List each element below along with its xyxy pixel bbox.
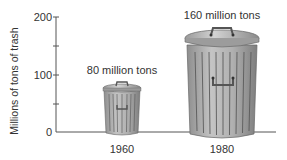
y-axis xyxy=(53,17,59,132)
data-label-1960: 80 million tons xyxy=(67,64,177,76)
chart-graphics xyxy=(0,0,287,160)
x-category-1980: 1980 xyxy=(197,143,247,155)
trash-can-1980 xyxy=(185,28,259,138)
x-category-1960: 1960 xyxy=(97,143,147,155)
data-label-1980: 160 million tons xyxy=(167,9,277,21)
trash-can-1960 xyxy=(103,82,141,135)
trash-pictograph-chart: Millions of tons of trash 200 100 0 xyxy=(0,0,287,160)
